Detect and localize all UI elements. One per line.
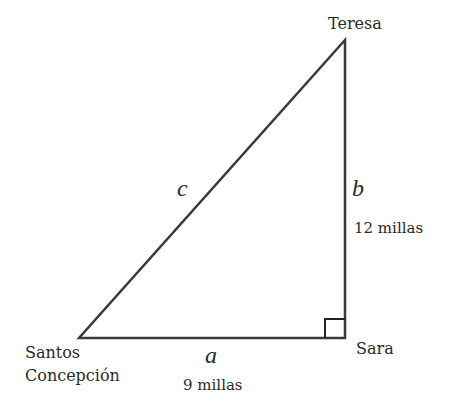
right-angle-marker — [325, 319, 345, 338]
side-variable-a: a — [205, 343, 217, 367]
triangle-diagram: Teresa Sara Santos Concepción c b 12 mil… — [0, 0, 449, 413]
side-variable-c: c — [177, 176, 188, 200]
vertex-label-teresa: Teresa — [328, 15, 382, 33]
side-length-b: 12 millas — [354, 219, 423, 237]
right-triangle — [79, 40, 345, 338]
vertex-label-sara: Sara — [356, 340, 394, 358]
side-length-a: 9 millas — [183, 376, 243, 394]
side-variable-b: b — [352, 176, 364, 200]
vertex-label-santos: Santos — [25, 344, 80, 362]
vertex-label-concepcion: Concepción — [25, 367, 120, 385]
